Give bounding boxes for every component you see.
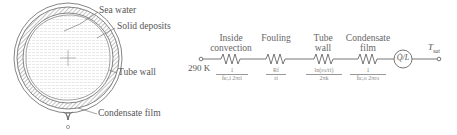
inlet-temperature: 290 K	[188, 63, 210, 73]
header-line: Tube	[303, 33, 343, 43]
header-line: wall	[303, 43, 343, 53]
formula-denominator: 2πk	[306, 75, 342, 82]
formula-numerator: Rf	[266, 67, 286, 75]
header-condensate-film: Condensate film	[340, 33, 396, 53]
formula-numerator: 1	[350, 67, 386, 75]
label-solid-deposits: Solid deposits	[117, 21, 171, 31]
formula-condensate-film: 1 h̄c,o 2πro	[350, 67, 386, 82]
formula-denominator: h̄c,i 2πri	[216, 75, 248, 82]
formula-denominator: ri	[266, 75, 286, 82]
header-fouling: Fouling	[256, 33, 296, 43]
label-condensate-film: Condensate film	[98, 108, 161, 118]
resistor-fouling	[266, 54, 285, 64]
formula-denominator: h̄c,o 2πro	[350, 75, 386, 82]
droplet-icon	[66, 125, 69, 128]
label-sea-water: Sea water	[99, 5, 136, 15]
header-tube-wall: Tube wall	[303, 33, 343, 53]
heat-source-label: Q̇/L	[395, 53, 411, 62]
header-line: film	[340, 43, 396, 53]
header-line: convection	[206, 43, 256, 53]
header-line: Condensate	[340, 33, 396, 43]
formula-tube-wall: ln(ro/ri) 2πk	[306, 67, 342, 82]
resistor-inside-convection	[221, 54, 240, 64]
formula-numerator: ln(ro/ri)	[306, 67, 342, 75]
outlet-node	[437, 57, 441, 61]
outlet-temperature: Tsat	[428, 42, 440, 54]
label-tube-wall: Tube wall	[118, 67, 156, 77]
resistor-tube-wall	[314, 54, 333, 64]
header-line: Inside	[206, 33, 256, 43]
inlet-node	[199, 57, 203, 61]
outlet-temperature-subscript: sat	[433, 48, 440, 54]
formula-inside-convection: 1 h̄c,i 2πri	[216, 67, 248, 82]
header-line: Fouling	[256, 33, 296, 43]
header-inside-convection: Inside convection	[206, 33, 256, 53]
resistor-condensate-film	[358, 54, 377, 64]
formula-fouling: Rf ri	[266, 67, 286, 82]
formula-numerator: 1	[216, 67, 248, 75]
